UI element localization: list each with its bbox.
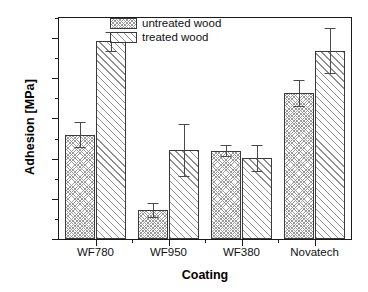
legend-swatch-treated-icon [110,32,137,43]
y-tick-major [52,159,59,160]
error-bar-cap-lower [294,106,305,107]
error-bar-stem [226,145,227,156]
y-tick-minor [55,18,59,19]
x-tick [96,239,97,246]
error-bar-stem [80,122,81,146]
adhesion-bar-chart: Adhesion [MPa] 0.00.51.01.52.02.5WF780WF… [0,0,368,292]
error-bar-stem [153,203,154,217]
legend-item-untreated: untreated wood [110,17,221,29]
x-tick [242,239,243,246]
error-bar-cap-upper [294,80,305,81]
bar-novatech-untreated [284,93,314,239]
legend-label-untreated: untreated wood [142,17,221,29]
error-bar-cap-upper [75,122,86,123]
bar-wf380-untreated [211,151,241,239]
error-bar-stem [257,145,258,171]
error-bar-cap-lower [252,171,263,172]
bar-wf780-treated [96,41,126,239]
error-bar-stem [184,124,185,175]
error-bar-cap-lower [148,217,159,218]
legend-label-treated: treated wood [142,31,209,43]
error-bar-cap-lower [179,176,190,177]
error-bar-cap-upper [325,28,336,29]
y-tick-major [52,78,59,79]
y-tick-minor [55,98,59,99]
x-tick-label: Novatech [270,246,360,258]
plot-inner: 0.00.51.01.52.02.5WF780WF950WF380Novatec… [59,18,351,239]
chart-legend: untreated wood treated wood [110,17,221,45]
x-tick-minor [205,239,206,243]
x-tick-minor [278,239,279,243]
y-tick-major [52,239,59,240]
x-tick [169,239,170,246]
error-bar-cap-lower [106,51,117,52]
x-tick-minor [132,239,133,243]
error-bar-cap-upper [221,145,232,146]
y-tick-minor [55,38,59,39]
legend-item-treated: treated wood [110,31,221,43]
error-bar-stem [299,80,300,106]
bar-novatech-treated [315,51,345,239]
x-tick [315,239,316,246]
y-tick-minor [55,219,59,220]
error-bar-cap-upper [179,124,190,125]
plot-area: 0.00.51.01.52.02.5WF780WF950WF380Novatec… [58,17,352,240]
y-tick-major [52,199,59,200]
x-axis-title: Coating [58,268,352,282]
y-tick-major [52,118,59,119]
error-bar-cap-lower [325,73,336,74]
y-tick-minor [55,179,59,180]
y-tick-minor [55,58,59,59]
y-tick-minor [55,139,59,140]
error-bar-stem [330,28,331,73]
error-bar-cap-upper [252,145,263,146]
error-bar-cap-upper [148,203,159,204]
y-axis-title: Adhesion [MPa] [23,47,37,207]
error-bar-cap-lower [221,156,232,157]
bar-wf780-untreated [65,135,95,239]
legend-swatch-untreated-icon [110,18,137,29]
error-bar-cap-lower [75,147,86,148]
